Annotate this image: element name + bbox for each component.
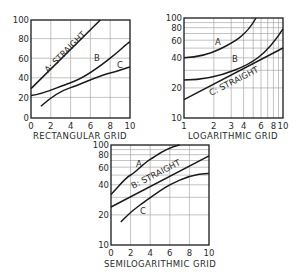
svg-text:100: 100 xyxy=(93,140,109,150)
rect-y-tick-labels: 0 20 40 60 80 100 xyxy=(13,15,29,123)
semilog-curve-b xyxy=(111,156,209,207)
svg-text:80: 80 xyxy=(98,150,109,160)
rect-label-a: A: STRAIGHT xyxy=(42,29,88,75)
semilog-x-tick-labels: 0 2 4 6 8 10 xyxy=(108,248,214,258)
svg-text:4: 4 xyxy=(68,121,73,131)
rect-curve-c xyxy=(41,67,130,106)
semilogarithmic-grid-chart: A B: STRAIGHT C 10 20 40 60 80 100 0 2 4… xyxy=(93,140,216,269)
semilog-y-tick-labels: 10 20 40 60 80 100 xyxy=(93,140,109,250)
semilog-caption: SEMILOGARITHMIC GRID xyxy=(104,259,216,269)
svg-text:40: 40 xyxy=(18,73,29,83)
svg-text:60: 60 xyxy=(171,36,182,46)
svg-text:2: 2 xyxy=(128,248,133,258)
rect-label-b: B xyxy=(94,53,100,63)
svg-text:2: 2 xyxy=(211,121,216,131)
svg-text:4: 4 xyxy=(147,248,152,258)
rectangular-grid-chart: A: STRAIGHT B C 0 20 40 60 80 100 0 2 4 … xyxy=(13,15,136,141)
log-plot-frame xyxy=(184,18,283,118)
svg-text:0: 0 xyxy=(28,121,33,131)
svg-text:10: 10 xyxy=(125,121,136,131)
svg-text:4: 4 xyxy=(241,121,246,131)
svg-text:6: 6 xyxy=(167,248,172,258)
svg-text:20: 20 xyxy=(18,93,29,103)
semilog-label-c: C xyxy=(140,206,146,216)
rect-label-c: C xyxy=(117,60,123,70)
svg-text:6: 6 xyxy=(88,121,93,131)
svg-text:10: 10 xyxy=(204,248,215,258)
log-gridlines xyxy=(184,18,283,118)
log-label-a: A xyxy=(215,37,221,47)
svg-text:60: 60 xyxy=(98,163,109,173)
logarithmic-grid-chart: A B C: STRAIGHT 10 20 40 60 80 100 1 2 3… xyxy=(166,13,289,141)
svg-text:40: 40 xyxy=(98,180,109,190)
rect-caption: RECTANGULAR GRID xyxy=(33,131,127,141)
svg-text:10: 10 xyxy=(278,121,289,131)
log-caption: LOGARITHMIC GRID xyxy=(188,131,278,141)
svg-text:8: 8 xyxy=(107,121,112,131)
svg-text:100: 100 xyxy=(166,13,182,23)
svg-text:8: 8 xyxy=(271,121,276,131)
svg-text:80: 80 xyxy=(171,23,182,33)
log-label-c: C: STRAIGHT xyxy=(207,64,261,98)
svg-text:6: 6 xyxy=(258,121,263,131)
svg-text:100: 100 xyxy=(13,15,29,25)
svg-text:0: 0 xyxy=(108,248,113,258)
svg-text:3: 3 xyxy=(228,121,233,131)
svg-text:20: 20 xyxy=(171,83,182,93)
log-y-tick-labels: 10 20 40 60 80 100 xyxy=(166,13,182,123)
rect-x-tick-labels: 0 2 4 6 8 10 xyxy=(28,121,135,131)
log-label-b: B xyxy=(232,54,238,64)
svg-text:80: 80 xyxy=(18,34,29,44)
semilog-label-a: A xyxy=(136,159,142,169)
svg-text:40: 40 xyxy=(171,53,182,63)
svg-text:1: 1 xyxy=(181,121,186,131)
svg-text:20: 20 xyxy=(98,210,109,220)
svg-text:8: 8 xyxy=(187,248,192,258)
grid-comparison-figure: A: STRAIGHT B C 0 20 40 60 80 100 0 2 4 … xyxy=(0,0,300,276)
semilog-gridlines xyxy=(111,145,209,245)
semilog-plot-frame xyxy=(111,145,209,245)
log-x-tick-labels: 1 2 3 4 6 8 10 xyxy=(181,121,288,131)
svg-text:60: 60 xyxy=(18,54,29,64)
svg-text:2: 2 xyxy=(48,121,53,131)
